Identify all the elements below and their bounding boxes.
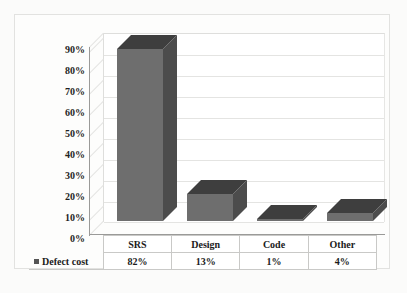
bar-front-face bbox=[327, 213, 373, 221]
ytick-label: 60% bbox=[49, 108, 85, 118]
value-axis-labels: 90% 80% 70% 60% 50% 40% 30% 20% 10% 0% bbox=[41, 33, 85, 236]
depth-connector bbox=[89, 185, 104, 200]
depth-connector bbox=[89, 122, 104, 137]
ytick-label: 10% bbox=[49, 213, 85, 223]
value-cell-srs: 82% bbox=[103, 253, 171, 270]
depth-connector bbox=[89, 206, 104, 221]
bar-front-face bbox=[117, 49, 163, 221]
value-cell-other: 4% bbox=[308, 253, 376, 270]
chart-frame: 90% 80% 70% 60% 50% 40% 30% 20% 10% 0% bbox=[14, 14, 390, 269]
bar-other[interactable] bbox=[327, 213, 373, 221]
plot-area bbox=[89, 33, 385, 235]
category-header-srs: SRS bbox=[103, 236, 171, 253]
value-cell-code: 1% bbox=[240, 253, 308, 270]
depth-connector bbox=[89, 101, 104, 116]
ytick-label: 20% bbox=[49, 192, 85, 202]
depth-connector bbox=[89, 164, 104, 179]
depth-connector bbox=[89, 143, 104, 158]
bar-side-face bbox=[163, 35, 177, 221]
value-axis-line bbox=[89, 47, 90, 236]
ytick-label: 30% bbox=[49, 171, 85, 181]
legend-label: Defect cost bbox=[42, 256, 88, 267]
depth-connector bbox=[89, 80, 104, 95]
value-cell-design: 13% bbox=[172, 253, 240, 270]
bar-front-face bbox=[187, 194, 233, 221]
bar-design[interactable] bbox=[187, 194, 233, 221]
category-header-code: Code bbox=[240, 236, 308, 253]
category-header-design: Design bbox=[172, 236, 240, 253]
bar-front-face bbox=[257, 219, 303, 221]
depth-connector bbox=[89, 59, 104, 74]
table-row-categories: SRS Design Code Other bbox=[29, 236, 377, 253]
ytick-label: 40% bbox=[49, 150, 85, 160]
bar-srs[interactable] bbox=[117, 49, 163, 221]
category-header-other: Other bbox=[308, 236, 376, 253]
ytick-label: 70% bbox=[49, 87, 85, 97]
ytick-label: 50% bbox=[49, 129, 85, 139]
data-table: SRS Design Code Other Defect cost 82% 13… bbox=[29, 235, 377, 270]
plot-floor bbox=[89, 221, 385, 235]
bar-code[interactable] bbox=[257, 219, 303, 221]
table-row-values: Defect cost 82% 13% 1% 4% bbox=[29, 253, 377, 270]
ytick-label: 80% bbox=[49, 66, 85, 76]
chart-screenshot: 90% 80% 70% 60% 50% 40% 30% 20% 10% 0% bbox=[0, 0, 407, 293]
table-corner-blank bbox=[29, 236, 103, 253]
legend-entry-defect-cost: Defect cost bbox=[29, 253, 103, 270]
ytick-label: 90% bbox=[49, 45, 85, 55]
legend-swatch-icon bbox=[34, 259, 39, 264]
